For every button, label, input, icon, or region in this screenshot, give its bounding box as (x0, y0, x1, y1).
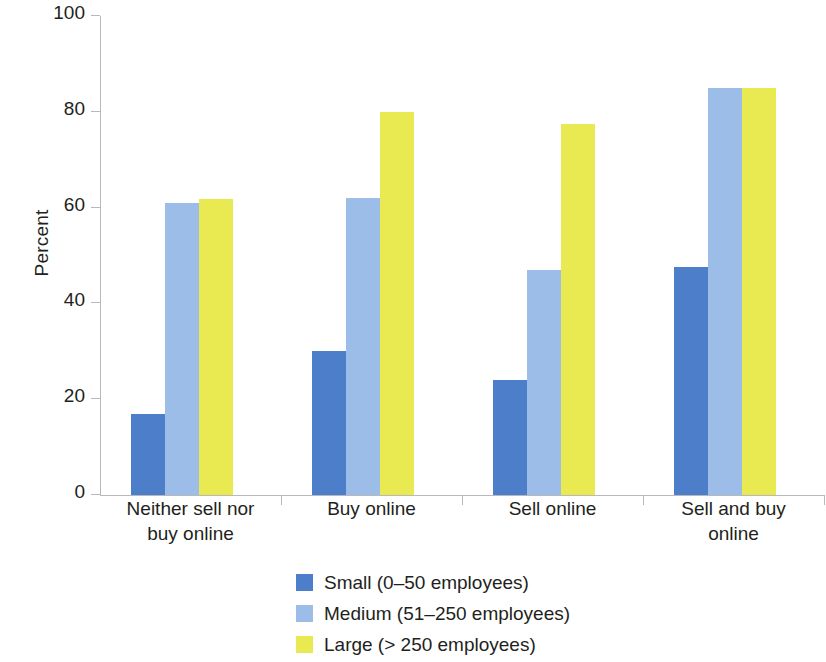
x-axis-tick (824, 495, 825, 505)
bar (527, 270, 561, 495)
legend-item: Medium (51–250 employees) (296, 599, 570, 628)
bar (199, 199, 233, 495)
bar (346, 198, 380, 495)
x-axis-category-label-line: Buy online (281, 496, 462, 521)
x-axis-category-label-line: Neither sell nor (100, 496, 281, 521)
legend-color-swatch (296, 636, 313, 653)
legend-label: Small (0–50 employees) (324, 572, 529, 594)
bar (674, 267, 708, 495)
x-axis-category-label-line: Sell and buy (643, 496, 824, 521)
bar-chart: Percent 020406080100 Neither sell norbuy… (0, 0, 826, 662)
legend-item: Small (0–50 employees) (296, 568, 570, 597)
y-axis-title: Percent (31, 183, 53, 303)
x-axis-category-label: Sell and buyonline (643, 496, 824, 546)
legend-label: Medium (51–250 employees) (324, 603, 570, 625)
bar (561, 124, 595, 495)
bar (165, 203, 199, 495)
x-axis-category-label-line: buy online (100, 521, 281, 546)
x-axis-category-label-line: online (643, 521, 824, 546)
legend-label: Large (> 250 employees) (324, 634, 536, 656)
legend-item: Large (> 250 employees) (296, 630, 570, 659)
bar (380, 112, 414, 495)
y-axis-tick-label: 40 (64, 289, 85, 311)
y-axis-tick-label: 100 (53, 2, 85, 24)
chart-legend: Small (0–50 employees)Medium (51–250 emp… (296, 568, 570, 659)
plot-area: 020406080100 (100, 16, 824, 495)
x-axis-category-label-line: Sell online (462, 496, 643, 521)
legend-color-swatch (296, 605, 313, 622)
y-axis-tick-label: 20 (64, 385, 85, 407)
y-axis-tick: 20 (91, 398, 100, 399)
x-axis-category-label: Neither sell norbuy online (100, 496, 281, 546)
y-axis-tick: 100 (91, 15, 100, 16)
bar (742, 88, 776, 495)
y-axis-tick: 60 (91, 207, 100, 208)
bar (312, 351, 346, 495)
bar (131, 414, 165, 495)
y-axis-tick: 80 (91, 111, 100, 112)
y-axis-tick: 40 (91, 302, 100, 303)
legend-color-swatch (296, 574, 313, 591)
x-axis-category-label: Sell online (462, 496, 643, 521)
x-axis-category-label: Buy online (281, 496, 462, 521)
y-axis-tick-label: 60 (64, 194, 85, 216)
y-axis-line (100, 16, 101, 495)
bar (708, 88, 742, 495)
y-axis-tick-label: 0 (74, 481, 85, 503)
y-axis-tick: 0 (91, 494, 100, 495)
y-axis-tick-label: 80 (64, 98, 85, 120)
bar (493, 380, 527, 495)
